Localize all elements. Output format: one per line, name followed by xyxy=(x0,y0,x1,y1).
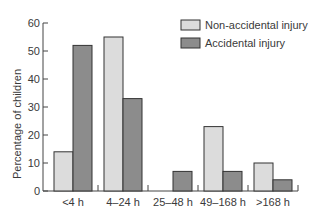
y-tick-label: 20 xyxy=(28,129,40,141)
legend-swatch xyxy=(181,38,200,48)
bar-accidental xyxy=(273,180,292,191)
y-tick-label: 30 xyxy=(28,101,40,113)
bar-non-accidental xyxy=(204,127,223,191)
y-tick-label: 60 xyxy=(28,17,40,29)
bar-accidental xyxy=(123,99,142,191)
legend-label: Non-accidental injury xyxy=(205,19,308,31)
bar-accidental xyxy=(73,45,92,191)
y-axis-title: Percentage of children xyxy=(11,69,23,179)
legend-label: Accidental injury xyxy=(205,37,286,49)
x-tick-label: 25–48 h xyxy=(153,196,193,208)
y-tick-label: 10 xyxy=(28,157,40,169)
bar-accidental xyxy=(223,171,242,191)
bar-non-accidental xyxy=(254,163,273,191)
bar-chart: Percentage of children 0102030405060 <4 … xyxy=(0,0,317,215)
x-tick-label: 49–168 h xyxy=(200,196,246,208)
bars xyxy=(54,37,292,191)
y-axis: 0102030405060 xyxy=(28,17,48,197)
bar-non-accidental xyxy=(54,152,73,191)
y-tick-label: 0 xyxy=(34,185,40,197)
legend: Non-accidental injuryAccidental injury xyxy=(181,19,308,49)
x-tick-label: <4 h xyxy=(62,196,84,208)
bar-accidental xyxy=(173,171,192,191)
y-tick-label: 40 xyxy=(28,73,40,85)
legend-swatch xyxy=(181,20,200,30)
x-tick-label: 4–24 h xyxy=(106,196,140,208)
bar-non-accidental xyxy=(104,37,123,191)
x-tick-label: >168 h xyxy=(256,196,290,208)
y-tick-label: 50 xyxy=(28,45,40,57)
